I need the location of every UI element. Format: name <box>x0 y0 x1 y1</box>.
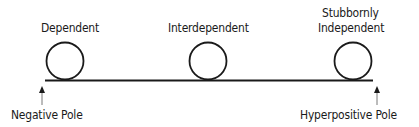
stubbornly-label: Stubbornly <box>322 6 379 20</box>
spectrum-diagram: Dependent Interdependent Stubbornly Inde… <box>0 0 419 127</box>
dependent-label: Dependent <box>41 21 99 35</box>
negative-pole-label: Negative Pole <box>11 108 83 122</box>
independent-label: Independent <box>318 21 384 35</box>
negative-pole-arrow-icon <box>39 86 45 105</box>
hyperpositive-pole-arrow-icon <box>374 86 380 105</box>
interdependent-circle <box>190 43 227 80</box>
interdependent-label: Interdependent <box>168 21 249 35</box>
hyperpositive-pole-label: Hyperpositive Pole <box>300 108 397 122</box>
independent-circle <box>335 43 372 80</box>
dependent-circle <box>47 43 84 80</box>
